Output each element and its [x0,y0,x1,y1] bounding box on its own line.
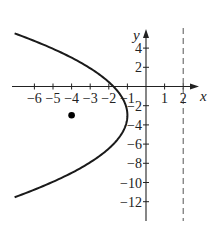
x-tick-label: −5 [46,91,61,106]
x-tick-label: −4 [64,91,79,106]
y-tick-label: −8 [127,156,142,171]
y-tick-label: −2 [127,99,142,114]
y-tick-label: 4 [135,41,142,56]
axes [12,29,199,221]
y-axis-label: y [131,27,140,43]
x-axis-arrow-icon [190,84,199,90]
x-tick-label: −3 [83,91,98,106]
focus-dot-icon [68,112,75,119]
y-axis-arrow-icon [143,29,149,38]
x-tick-label: −6 [27,91,42,106]
y-tick-label: −10 [120,176,142,191]
y-tick-label: −6 [127,137,142,152]
y-tick-label: −4 [127,118,142,133]
x-axis-label: x [199,88,207,104]
y-tick-label: 2 [135,60,142,75]
x-tick-label: −2 [101,91,116,106]
x-tick-label: 2 [180,91,187,106]
focus-point [68,112,75,119]
parabola-chart: −6−5−4−3−2−11242−2−4−6−8−10−12xy [0,0,208,236]
y-tick-label: −12 [120,195,142,210]
x-tick-label: 1 [161,91,168,106]
